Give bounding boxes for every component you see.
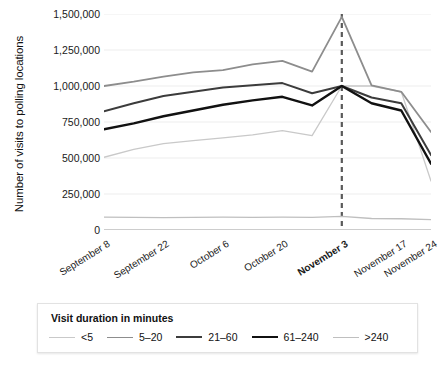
legend-item-label: 5–20	[139, 331, 162, 343]
legend-item-label: 61–240	[284, 331, 319, 343]
legend-item[interactable]: 5–20	[107, 331, 162, 343]
legend-swatch-icon	[333, 337, 359, 338]
legend-item[interactable]: <5	[49, 331, 93, 343]
legend-item[interactable]: 61–240	[252, 331, 319, 343]
x-axis-tick-label: October 20	[181, 238, 290, 312]
series-line-5-20	[104, 17, 431, 132]
x-axis-tick-label: October 6	[121, 238, 230, 312]
y-axis-tick-label: 1,500,000	[53, 8, 100, 20]
y-axis-tick-label: 1,000,000	[53, 80, 100, 92]
visits-to-polling-locations-chart: Number of visits to polling locations 02…	[0, 0, 445, 366]
y-axis-tick-label: 750,000	[62, 116, 100, 128]
legend: Visit duration in minutes <55–2021–6061–…	[37, 303, 418, 353]
series-line--240	[104, 216, 431, 219]
y-axis-tick-label: 0	[94, 224, 100, 236]
plot-area	[104, 14, 431, 230]
legend-swatch-icon	[176, 336, 202, 338]
x-axis-tick-label: September 22	[62, 238, 171, 312]
legend-item[interactable]: 21–60	[176, 331, 237, 343]
legend-items: <55–2021–6061–240>240	[49, 331, 402, 343]
y-axis-tick-label: 250,000	[62, 188, 100, 200]
legend-swatch-icon	[49, 337, 75, 338]
legend-item[interactable]: >240	[333, 331, 389, 343]
legend-item-label: 21–60	[208, 331, 237, 343]
y-axis-tick-label: 1,250,000	[53, 44, 100, 56]
legend-item-label: >240	[365, 331, 389, 343]
series-lines	[104, 14, 431, 230]
legend-swatch-icon	[252, 336, 278, 338]
y-axis-tick-label: 500,000	[62, 152, 100, 164]
legend-swatch-icon	[107, 337, 133, 338]
legend-title: Visit duration in minutes	[51, 312, 173, 324]
y-axis-tick-labels: 0250,000500,000750,0001,000,0001,250,000…	[0, 0, 100, 230]
x-axis-tick-label: September 8	[3, 238, 112, 312]
legend-item-label: <5	[81, 331, 93, 343]
